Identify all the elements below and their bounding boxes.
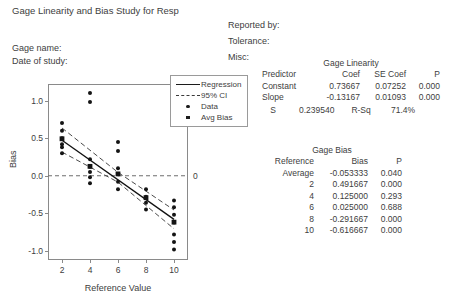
table-row: Average-0.0533330.040: [262, 168, 402, 180]
avg-bias-marker-icon: [175, 116, 201, 120]
table-cell: 8: [262, 214, 314, 226]
avg-bias-marker: [60, 136, 65, 141]
table-cell: 0.73667: [314, 81, 360, 93]
gage-linearity-table: Gage Linearity PredictorCoefSE CoefP Con…: [262, 58, 440, 115]
table-cell: 0.025000: [314, 202, 368, 214]
data-point: [116, 187, 120, 191]
legend-item-avg-bias: Avg Bias: [175, 112, 241, 123]
y-tick-label: -1.0: [28, 246, 43, 256]
x-tick-mark: [118, 260, 119, 263]
x-tick-mark: [90, 260, 91, 263]
date-of-study-label: Date of study:: [12, 56, 68, 66]
rsq-label: R-Sq: [337, 105, 371, 115]
table-header-row: PredictorCoefSE CoefP: [262, 69, 440, 81]
table-row: Constant0.736670.072520.000: [262, 81, 440, 93]
avg-bias-marker: [144, 195, 149, 200]
legend-item-ci: 95% CI: [175, 90, 241, 101]
table-row: 20.4916670.000: [262, 179, 402, 191]
table-cell: Constant: [262, 81, 314, 93]
gage-name-label: Gage name:: [12, 43, 62, 53]
column-header: SE Coef: [360, 69, 406, 81]
table-cell: 0.01093: [360, 92, 406, 104]
data-point: [144, 187, 148, 191]
data-point: [116, 180, 120, 184]
y-tick-label: 1.0: [31, 96, 43, 106]
s-value: 0.239540: [278, 105, 334, 115]
table-cell: 0.000: [368, 179, 402, 191]
data-point: [60, 129, 64, 133]
table-row: 60.0250000.688: [262, 202, 402, 214]
table-cell: 0.688: [368, 202, 402, 214]
table-cell: Average: [262, 168, 314, 180]
reported-by-label: Reported by:: [228, 20, 280, 30]
page-title: Gage Linearity and Bias Study for Resp: [12, 5, 179, 16]
x-tick-label: 6: [116, 265, 121, 275]
table-cell: 0.000: [406, 81, 440, 93]
data-point: [116, 140, 120, 144]
table-cell: -0.053333: [314, 168, 368, 180]
chart-legend: Regression 95% CI Data Avg Bias: [170, 75, 248, 127]
data-point: [144, 208, 148, 212]
table-cell: -0.291667: [314, 214, 368, 226]
table-cell: 0.07252: [360, 81, 406, 93]
x-tick-mark: [146, 260, 147, 263]
misc-label: Misc:: [228, 52, 249, 62]
avg-bias-marker: [116, 171, 121, 176]
avg-bias-marker: [172, 220, 177, 225]
data-point: [60, 145, 64, 149]
zero-reference-label: 0: [193, 171, 198, 181]
legend-label: Data: [201, 102, 218, 111]
y-tick-label: 0.0: [31, 171, 43, 181]
x-tick-mark: [174, 260, 175, 263]
tolerance-label: Tolerance:: [228, 36, 270, 46]
x-tick-label: 10: [169, 265, 178, 275]
y-axis-title: Bias: [8, 150, 18, 168]
y-tick-mark: [45, 251, 48, 252]
table-cell: 0.000: [368, 214, 402, 226]
data-point: [60, 121, 64, 125]
data-point: [88, 175, 92, 179]
data-point: [172, 240, 176, 244]
legend-label: Regression: [201, 80, 241, 89]
column-header: Bias: [314, 156, 368, 168]
gage-bias-caption: Gage Bias: [262, 145, 402, 155]
gage-linearity-caption: Gage Linearity: [262, 58, 440, 68]
y-tick-label: 0.5: [31, 133, 43, 143]
data-point: [88, 157, 92, 161]
table-cell: 10: [262, 225, 314, 237]
x-tick-label: 4: [88, 265, 93, 275]
data-point: [88, 181, 92, 185]
x-tick-label: 2: [60, 265, 65, 275]
column-header: P: [368, 156, 402, 168]
table-cell: Slope: [262, 92, 314, 104]
table-cell: 0.040: [368, 168, 402, 180]
s-label: S: [262, 105, 276, 115]
y-tick-label: -0.5: [28, 208, 43, 218]
data-point: [88, 91, 92, 95]
data-point: [88, 170, 92, 174]
gage-bias-table: Gage Bias ReferenceBiasP Average-0.05333…: [262, 145, 402, 237]
x-axis-title: Reference Value: [85, 283, 151, 293]
table-cell: 6: [262, 202, 314, 214]
x-tick-mark: [62, 260, 63, 263]
legend-label: Avg Bias: [201, 113, 232, 122]
gage-study-report: Gage Linearity and Bias Study for Resp G…: [0, 0, 458, 300]
table-cell: 0.491667: [314, 179, 368, 191]
table-cell: 4: [262, 191, 314, 203]
data-point: [172, 213, 176, 217]
legend-label: 95% CI: [201, 91, 227, 100]
scatter-plot: -1.0-0.50.00.51.0246810: [48, 84, 188, 260]
table-header-row: ReferenceBiasP: [262, 156, 402, 168]
data-point: [116, 166, 120, 170]
avg-bias-marker: [88, 164, 93, 169]
legend-item-data: Data: [175, 101, 241, 112]
column-header: Coef: [314, 69, 360, 81]
confidence-interval-line-icon: [175, 95, 201, 96]
column-header: P: [406, 69, 440, 81]
table-cell: -0.616667: [314, 225, 368, 237]
table-cell: 0.293: [368, 191, 402, 203]
x-tick-label: 8: [144, 265, 149, 275]
table-cell: 0.000: [368, 225, 402, 237]
data-point-icon: [175, 105, 201, 108]
data-point: [144, 201, 148, 205]
